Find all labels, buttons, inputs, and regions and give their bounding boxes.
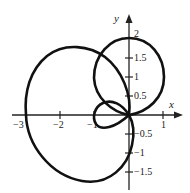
x-axis-label: x [168,98,174,110]
y-tick-label: −1.5 [134,166,152,177]
x-tick-label: 1 [161,119,166,130]
y-tick-label: 1 [134,71,139,82]
x-axis-arrow-icon [174,112,183,119]
polar-plot: −3 −2 −1 1 2 1.5 1 0.5 −0.5 −1 −1.5 x y [0,0,190,193]
y-tick-label: −1 [134,147,145,158]
x-tick-label: −3 [13,119,24,130]
y-tick-label: 1.5 [134,52,147,63]
y-axis-label: y [113,12,119,24]
y-tick-label: −0.5 [134,128,152,139]
y-tick-label: 0.5 [134,90,147,101]
axes: −3 −2 −1 1 2 1.5 1 0.5 −0.5 −1 −1.5 x y [12,12,183,190]
x-tick-label: −2 [53,119,64,130]
y-axis-arrow-icon [126,14,133,23]
